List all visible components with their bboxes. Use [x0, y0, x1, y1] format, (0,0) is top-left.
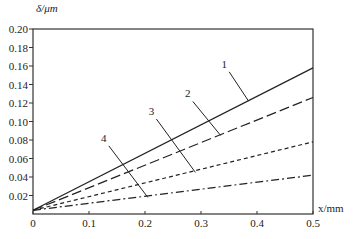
- plot-border: [33, 29, 313, 214]
- y-tick-label: 0.16: [9, 60, 29, 72]
- y-tick-label: 0.08: [9, 134, 29, 146]
- plot-frame: [33, 29, 313, 214]
- leader-line-4: [109, 146, 148, 198]
- series-line-2: [33, 97, 313, 210]
- y-axis-ticks: 0.020.040.060.080.100.120.140.160.180.20: [9, 23, 33, 202]
- x-tick-label: 0.5: [306, 217, 320, 229]
- x-tick-label: 0: [30, 217, 36, 229]
- curve-annotations: 1234: [101, 58, 249, 198]
- y-tick-label: 0.20: [9, 23, 29, 35]
- curve-label-4: 4: [101, 132, 107, 144]
- leader-line-3: [156, 119, 195, 172]
- y-tick-label: 0.10: [9, 116, 29, 128]
- y-tick-label: 0.18: [9, 42, 29, 54]
- series-line-1: [33, 68, 313, 210]
- data-series: [33, 68, 313, 210]
- y-axis-label: δ/μm: [36, 2, 58, 14]
- series-line-4: [33, 175, 313, 210]
- x-tick-label: 0.3: [194, 217, 208, 229]
- leader-line-1: [229, 72, 248, 101]
- curve-label-1: 1: [221, 58, 227, 70]
- y-tick-label: 0.12: [9, 97, 28, 109]
- line-chart: 0.020.040.060.080.100.120.140.160.180.20…: [0, 0, 357, 239]
- y-tick-label: 0.06: [9, 153, 29, 165]
- x-tick-label: 0.2: [138, 217, 152, 229]
- x-tick-label: 0.4: [250, 217, 264, 229]
- y-tick-label: 0.04: [9, 171, 29, 183]
- curve-label-2: 2: [185, 87, 191, 99]
- leader-line-2: [193, 101, 221, 135]
- y-tick-label: 0.02: [9, 190, 28, 202]
- x-axis-label: x/mm: [318, 202, 344, 214]
- series-line-3: [33, 142, 313, 210]
- curve-label-3: 3: [149, 105, 155, 117]
- y-tick-label: 0.14: [9, 79, 29, 91]
- x-tick-label: 0.1: [82, 217, 96, 229]
